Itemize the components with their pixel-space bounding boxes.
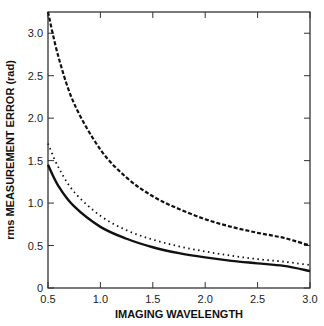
plot-area: 0.51.01.52.02.53.000.51.01.52.02.53.0 <box>28 12 318 305</box>
series-dotted-line <box>48 144 310 265</box>
y-axis-title: rms MEASUREMENT ERROR (rad) <box>4 60 16 240</box>
y-tick-label: 2.5 <box>28 70 43 82</box>
x-tick-label: 2.0 <box>198 293 213 305</box>
chart: 0.51.01.52.02.53.000.51.01.52.02.53.0 IM… <box>0 0 324 326</box>
x-axis-title: IMAGING WAVELENGTH <box>115 308 243 320</box>
x-tick-label: 3.0 <box>302 293 317 305</box>
y-tick-label: 0 <box>37 282 43 294</box>
y-tick-label: 2.0 <box>28 112 43 124</box>
y-tick-label: 1.0 <box>28 197 43 209</box>
x-tick-label: 0.5 <box>40 293 55 305</box>
x-tick-label: 2.5 <box>250 293 265 305</box>
series-dashed-line <box>48 12 310 246</box>
x-tick-label: 1.0 <box>93 293 108 305</box>
y-tick-label: 0.5 <box>28 240 43 252</box>
series-solid-line <box>48 165 310 271</box>
y-tick-label: 3.0 <box>28 27 43 39</box>
y-tick-label: 1.5 <box>28 155 43 167</box>
x-tick-label: 1.5 <box>145 293 160 305</box>
